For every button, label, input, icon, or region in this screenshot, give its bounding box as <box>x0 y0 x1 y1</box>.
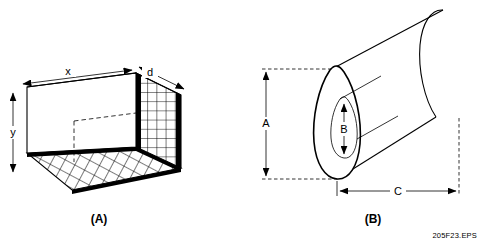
panel-a-caption: (A) <box>91 212 108 226</box>
figure-canvas: x d y (A) <box>0 0 483 249</box>
dimension-a-label: A <box>262 117 270 129</box>
dimension-x-label: x <box>65 65 71 77</box>
panel-b-caption: (B) <box>365 212 382 226</box>
dimension-y-label: y <box>10 126 16 138</box>
dimension-d-label: d <box>147 66 153 78</box>
dimension-b-label: B <box>340 123 347 135</box>
source-file-label: 205F23.EPS <box>432 231 477 240</box>
technical-illustration: x d y (A) <box>0 0 483 249</box>
dimension-c-label: C <box>394 185 402 197</box>
